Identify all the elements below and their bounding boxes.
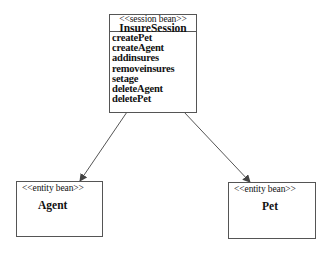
class-name: Pet [262, 200, 278, 212]
operations-list: createPet createAgent addinsures removei… [110, 32, 196, 104]
class-name: InsureSession [110, 24, 196, 32]
class-name: Agent [38, 199, 67, 211]
pet-entity-bean-box: <<entity bean>> Pet [228, 182, 316, 239]
arrow-session-to-agent [80, 112, 127, 181]
session-bean-class-box: <<session bean>> InsureSession createPet… [109, 14, 197, 113]
class-header: <<session bean>> InsureSession [110, 15, 196, 32]
operation-item: deletePet [112, 94, 196, 104]
stereotype-label: <<entity bean>> [22, 184, 84, 193]
agent-entity-bean-box: <<entity bean>> Agent [16, 181, 103, 237]
arrow-session-to-pet [184, 112, 250, 182]
stereotype-label: <<entity bean>> [234, 185, 296, 194]
